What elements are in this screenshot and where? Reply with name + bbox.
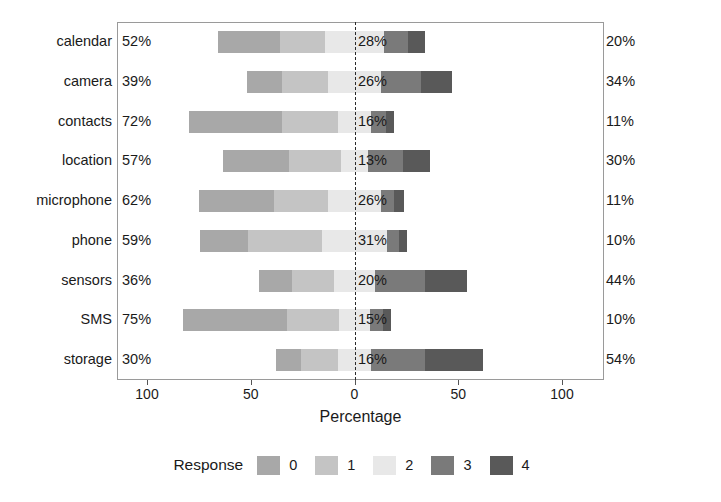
bar-segment-response-4 [421, 71, 452, 93]
middle-percentage-label: 16% [358, 340, 387, 380]
legend: Response 01234 [0, 448, 721, 482]
bar-segment-response-0 [189, 111, 282, 133]
middle-percentage-label: 15% [358, 300, 387, 340]
bar-segment-response-1 [301, 349, 338, 371]
bar-segment-response-3 [384, 31, 409, 53]
bar-segment-response-1 [289, 150, 341, 172]
bar-segment-response-3 [381, 71, 420, 93]
legend-swatch-1 [315, 456, 338, 475]
bar-segment-response-1 [280, 31, 326, 53]
bar-segment-response-0 [276, 349, 301, 371]
x-axis-tick-mark [562, 380, 563, 385]
bar-segment-response-1 [274, 190, 328, 212]
middle-percentage-label: 26% [358, 181, 387, 221]
chart-row: microphone62%11%26% [0, 181, 721, 221]
legend-swatch-0 [257, 456, 280, 475]
chart-row: storage30%54%16% [0, 340, 721, 380]
bar-segment-response-4 [408, 31, 425, 53]
bar-segment-response-1 [292, 270, 334, 292]
chart-row: SMS75%10%15% [0, 300, 721, 340]
chart-row: calendar52%20%28% [0, 22, 721, 62]
bar-segment-response-0 [183, 309, 287, 331]
bar-segment-response-4 [425, 349, 483, 371]
bar-segment-response-1 [282, 71, 328, 93]
bar-segment-response-0 [223, 150, 289, 172]
legend-item: 0 [257, 456, 311, 475]
bar-segment-response-0 [259, 270, 292, 292]
bar-segment-response-4 [394, 190, 404, 212]
middle-percentage-label: 13% [358, 141, 387, 181]
legend-label: 3 [463, 457, 471, 473]
x-axis-tick-mark [458, 380, 459, 385]
x-axis-tick-label: 50 [450, 386, 466, 402]
middle-percentage-label: 26% [358, 62, 387, 102]
legend-item: 1 [315, 456, 369, 475]
bar-segment-response-3 [387, 230, 399, 252]
chart-row: sensors36%44%20% [0, 261, 721, 301]
x-axis-tick-label: 0 [351, 386, 359, 402]
legend-swatch-4 [490, 456, 513, 475]
legend-item: 2 [373, 456, 427, 475]
bar-segment-response-0 [218, 31, 280, 53]
x-axis-tick-mark [355, 380, 356, 385]
x-axis-title: Percentage [0, 408, 721, 426]
bar-segment-response-0 [200, 230, 248, 252]
bar-segment-response-0 [199, 190, 274, 212]
bar-segment-response-1 [248, 230, 323, 252]
chart-rows: calendar52%20%28%camera39%34%26%contacts… [0, 22, 721, 380]
bar-segment-response-1 [282, 111, 338, 133]
bar-segment-response-4 [399, 230, 407, 252]
diverging-stacked-bar-chart: calendar52%20%28%camera39%34%26%contacts… [0, 0, 721, 502]
bar-segment-response-0 [247, 71, 282, 93]
x-axis-tick-mark [251, 380, 252, 385]
legend-title: Response [173, 456, 243, 474]
bar-segment-response-4 [403, 150, 430, 172]
legend-item: 4 [490, 456, 544, 475]
legend-item: 3 [431, 456, 485, 475]
x-axis: Percentage 10050050100 [0, 380, 721, 430]
bar-segment-response-4 [425, 270, 467, 292]
chart-row: phone59%10%31% [0, 221, 721, 261]
bar-segment-response-1 [287, 309, 339, 331]
legend-label: 1 [347, 457, 355, 473]
middle-percentage-label: 20% [358, 261, 387, 301]
zero-reference-line [355, 22, 356, 380]
middle-percentage-label: 31% [358, 221, 387, 261]
x-axis-tick-label: 100 [135, 386, 158, 402]
x-axis-tick-mark [147, 380, 148, 385]
x-axis-tick-label: 50 [243, 386, 259, 402]
chart-row: location57%30%13% [0, 141, 721, 181]
legend-label: 2 [405, 457, 413, 473]
middle-percentage-label: 28% [358, 22, 387, 62]
legend-label: 0 [289, 457, 297, 473]
x-axis-tick-label: 100 [550, 386, 573, 402]
legend-swatch-3 [431, 456, 454, 475]
legend-swatch-2 [373, 456, 396, 475]
middle-percentage-label: 16% [358, 102, 387, 142]
chart-row: camera39%34%26% [0, 62, 721, 102]
chart-row: contacts72%11%16% [0, 102, 721, 142]
legend-label: 4 [522, 457, 530, 473]
